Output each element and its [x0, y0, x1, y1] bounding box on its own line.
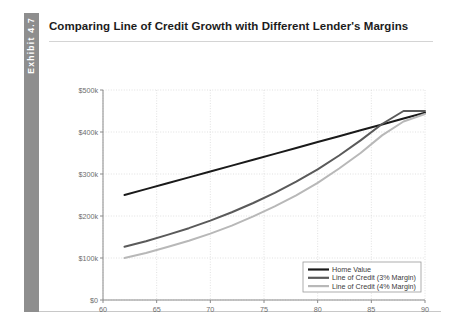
exhibit-card: Exhibit 4.7 Comparing Line of Credit Gro… — [24, 13, 441, 312]
series-line — [124, 114, 425, 258]
chart-plot-area: $0$100k$200k$300k$400k$500k6065707580859… — [39, 65, 441, 312]
x-tick-label: 85 — [367, 305, 375, 313]
title-block: Comparing Line of Credit Growth with Dif… — [49, 19, 433, 42]
exhibit-card-body: Comparing Line of Credit Growth with Dif… — [39, 13, 441, 312]
x-tick-label: 80 — [314, 305, 322, 313]
y-tick-label: $0 — [90, 296, 98, 305]
chart-legend: Home ValueLine of Credit (3% Margin)Line… — [303, 262, 421, 292]
legend-label: Line of Credit (4% Margin) — [332, 282, 416, 291]
exhibit-number-band: Exhibit 4.7 — [24, 13, 39, 312]
x-tick-label: 60 — [99, 305, 107, 313]
y-tick-label: $200k — [78, 212, 98, 221]
x-tick-label: 75 — [260, 305, 268, 313]
x-tick-label: 90 — [421, 305, 429, 313]
data-series-layer — [124, 111, 425, 258]
y-tick-label: $300k — [78, 170, 98, 179]
y-tick-label: $500k — [78, 86, 98, 95]
exhibit-number-label: Exhibit 4.7 — [25, 17, 38, 74]
y-tick-label: $400k — [78, 128, 98, 137]
chart-title: Comparing Line of Credit Growth with Dif… — [49, 19, 433, 34]
series-line — [124, 111, 425, 247]
line-chart-svg: $0$100k$200k$300k$400k$500k6065707580859… — [39, 65, 441, 312]
x-tick-label: 70 — [206, 305, 214, 313]
x-tick-label: 65 — [153, 305, 161, 313]
y-tick-label: $100k — [78, 254, 98, 263]
